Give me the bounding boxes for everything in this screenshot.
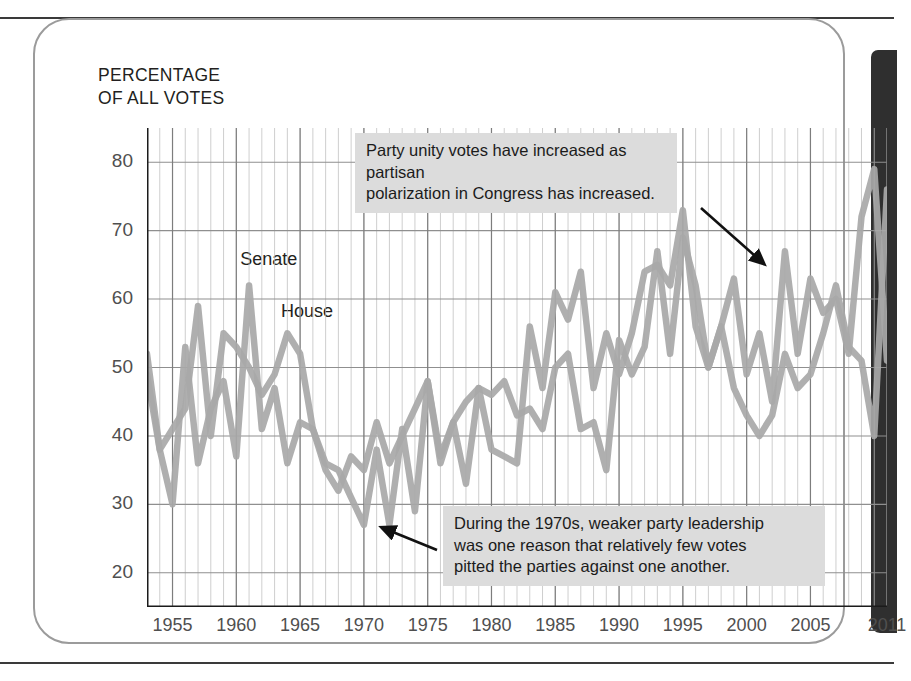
y-tick-80: 80 (99, 150, 133, 172)
x-tick-1990: 1990 (589, 615, 649, 636)
x-tick-1970: 1970 (334, 615, 394, 636)
y-tick-40: 40 (99, 424, 133, 446)
y-tick-70: 70 (99, 219, 133, 241)
y-tick-30: 30 (99, 492, 133, 514)
x-tick-1995: 1995 (653, 615, 713, 636)
annotation-polarization: Party unity votes have increased as part… (355, 133, 677, 213)
x-tick-1985: 1985 (525, 615, 585, 636)
x-tick-2011: 2011 (857, 615, 911, 636)
chart-card: PERCENTAGE OF ALL VOTES 20304050607080 1… (33, 18, 845, 644)
x-tick-1955: 1955 (143, 615, 203, 636)
bottom-rule-divider (0, 662, 894, 664)
x-tick-2005: 2005 (780, 615, 840, 636)
x-tick-2000: 2000 (717, 615, 777, 636)
y-tick-20: 20 (99, 561, 133, 583)
x-tick-1975: 1975 (398, 615, 458, 636)
y-tick-60: 60 (99, 287, 133, 309)
annotation-1970s: During the 1970s, weaker party leadershi… (443, 506, 825, 586)
x-tick-1960: 1960 (206, 615, 266, 636)
x-tick-1965: 1965 (270, 615, 330, 636)
y-tick-50: 50 (99, 356, 133, 378)
axis-title: PERCENTAGE OF ALL VOTES (98, 64, 224, 110)
x-tick-1980: 1980 (461, 615, 521, 636)
